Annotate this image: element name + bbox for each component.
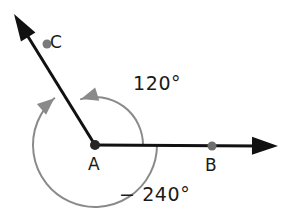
vertex-marker-a (90, 140, 100, 150)
outer-arc-arrowhead-icon (37, 98, 54, 114)
inner-arc-arrowhead-icon (81, 87, 99, 100)
angle-label-120: 120° (133, 74, 181, 93)
point-label-c: C (50, 34, 62, 51)
ray-ab-group (95, 137, 278, 155)
angle-diagram-canvas: C A B 120° − 240° (0, 0, 285, 216)
ray-ab-arrowhead-icon (252, 137, 278, 155)
ray-ab-line (95, 145, 259, 146)
point-label-b: B (205, 157, 217, 174)
point-marker-b (208, 142, 217, 151)
vertex-label-a: A (88, 156, 100, 173)
angle-label-minus-240: − 240° (119, 185, 190, 204)
ray-ac-arrowhead-icon (14, 14, 35, 41)
